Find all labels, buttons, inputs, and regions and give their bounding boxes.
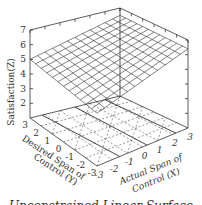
x-tick-label: 1: [157, 145, 163, 155]
z-axis-label: Satisfaction(Z): [6, 58, 16, 125]
x-tick-label: 2: [171, 138, 178, 148]
x-tick-label: 0: [142, 151, 148, 161]
y-axis-label: Desired Span of: [20, 133, 87, 182]
chart-container: 234567-3-2-101233210-1-2-3Satisfaction(Z…: [0, 0, 202, 205]
z-tick-label: 2: [20, 98, 26, 108]
z-ticks: 234567: [20, 8, 188, 113]
z-tick-label: 6: [20, 40, 26, 50]
z-tick-label: 3: [20, 84, 26, 94]
y-tick-label: 2: [33, 128, 39, 138]
y-tick-label: 3: [22, 120, 28, 130]
x-tick-label: 3: [187, 132, 193, 142]
z-tick-label: 7: [20, 25, 26, 35]
y-tick-label: 1: [44, 136, 50, 146]
z-tick-label: 5: [20, 54, 26, 64]
chart-caption: Unconstrained Linear Surface: [9, 199, 193, 205]
x-tick-label: -1: [125, 157, 134, 167]
x-tick-label: -2: [110, 164, 119, 174]
plot-group: 234567-3-2-101233210-1-2-3Satisfaction(Z…: [6, 8, 193, 205]
z-tick-label: 4: [20, 69, 26, 79]
y-tick-label: -3: [88, 168, 97, 178]
surface-plot: 234567-3-2-101233210-1-2-3Satisfaction(Z…: [0, 0, 202, 205]
